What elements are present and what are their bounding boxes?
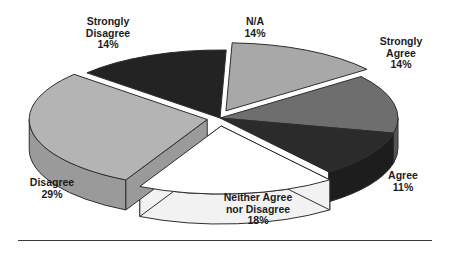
slice-label-strongly-agree-line1: Strongly	[355, 36, 447, 48]
slice-label-strongly-disagree: Strongly Disagree 14%	[54, 16, 162, 51]
slice-label-neither-agree-nor-disagree: Neither Agree nor Disagree 18%	[190, 192, 326, 227]
slice-label-agree-line1: Agree	[368, 170, 438, 182]
slice-label-strongly-disagree-line1: Strongly	[54, 16, 162, 28]
slice-label-neither-line1: Neither Agree	[190, 192, 326, 204]
slice-label-na-line1: N/A	[215, 16, 295, 28]
slice-label-strongly-agree: Strongly Agree 14%	[355, 36, 447, 71]
slice-value-na: 14%	[215, 28, 295, 40]
slice-value-neither: 18%	[190, 215, 326, 227]
slice-value-agree: 11%	[368, 182, 438, 194]
slice-value-strongly-disagree: 14%	[54, 39, 162, 51]
pie-chart: Strongly Disagree 14% N/A 14% Strongly A…	[0, 0, 449, 257]
slice-label-disagree-line1: Disagree	[4, 177, 100, 189]
slice-label-disagree: Disagree 29%	[4, 177, 100, 200]
slice-value-strongly-agree: 14%	[355, 59, 447, 71]
slice-label-na: N/A 14%	[215, 16, 295, 39]
bottom-divider-rule	[18, 240, 432, 241]
slice-value-disagree: 29%	[4, 189, 100, 201]
slice-label-agree: Agree 11%	[368, 170, 438, 193]
